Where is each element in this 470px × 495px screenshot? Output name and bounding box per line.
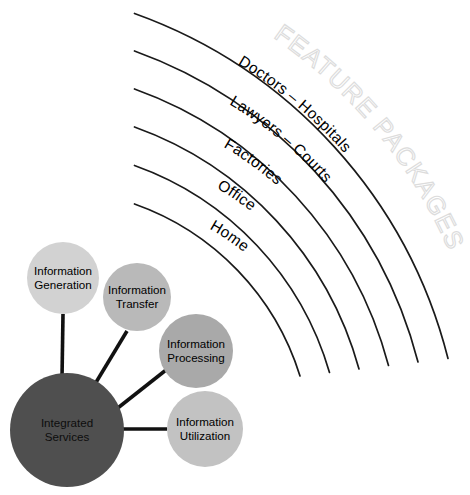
spoke-to-information-generation — [62, 314, 63, 378]
information-services-diagram: FEATURE PACKAGES Doctors – Hospitals Law… — [0, 0, 470, 495]
node-label-information-transfer-line1: Information — [108, 283, 166, 296]
node-information-processing[interactable]: Information Processing — [159, 314, 233, 388]
node-label-information-processing-line2: Processing — [167, 351, 224, 364]
feature-packages-watermark: FEATURE PACKAGES — [270, 18, 470, 254]
node-label-information-utilization-line2: Utilization — [180, 429, 230, 442]
node-integrated-services[interactable]: Integrated Services — [10, 373, 124, 487]
node-information-transfer[interactable]: Information Transfer — [103, 263, 171, 331]
spoke-to-information-processing — [114, 370, 166, 411]
node-information-utilization[interactable]: Information Utilization — [167, 391, 243, 467]
node-label-integrated-services-line2: Services — [45, 430, 90, 443]
arc-label-office-text: Office — [215, 176, 260, 214]
node-label-information-generation-line1: Information — [34, 264, 92, 277]
diagram-canvas: FEATURE PACKAGES Doctors – Hospitals Law… — [0, 0, 470, 495]
arc-label-office: Office — [215, 176, 260, 214]
feature-packages-watermark-text: FEATURE PACKAGES — [270, 18, 470, 254]
node-label-integrated-services-line1: Integrated — [41, 416, 93, 429]
spoke-to-information-transfer — [92, 331, 127, 389]
node-label-information-utilization-line1: Information — [176, 415, 234, 428]
node-label-information-transfer-line2: Transfer — [116, 297, 159, 310]
node-label-information-generation-line2: Generation — [34, 278, 91, 291]
node-information-generation[interactable]: Information Generation — [27, 242, 99, 314]
node-label-information-processing-line1: Information — [167, 337, 225, 350]
